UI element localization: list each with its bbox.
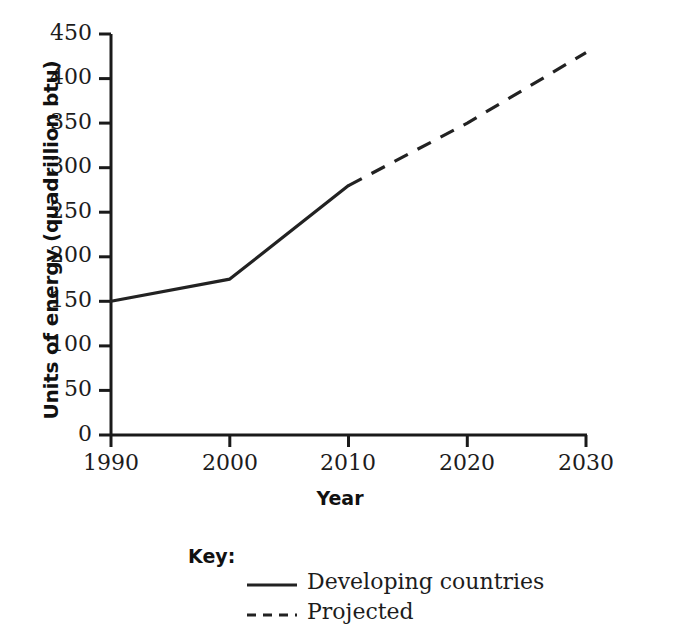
x-axis-title: Year bbox=[240, 487, 440, 509]
plot-area bbox=[0, 0, 681, 637]
legend-solid-line-icon bbox=[246, 576, 298, 588]
legend-item-projected: Projected bbox=[246, 601, 414, 623]
line-chart-figure: 450 400 350 300 250 200 150 100 50 0 199… bbox=[0, 0, 681, 637]
ytick-label-450: 450 bbox=[22, 22, 92, 44]
legend-label-projected: Projected bbox=[307, 601, 414, 623]
y-axis-title: Units of energy (quadrillion btu) bbox=[39, 45, 63, 435]
x-axis-ticks bbox=[111, 435, 586, 447]
xtick-label-2000: 2000 bbox=[180, 452, 280, 474]
y-axis-ticks bbox=[99, 34, 111, 435]
legend-dashed-line-icon bbox=[246, 606, 298, 618]
xtick-label-2030: 2030 bbox=[536, 452, 636, 474]
legend-item-developing-countries: Developing countries bbox=[246, 571, 544, 593]
legend-label-developing-countries: Developing countries bbox=[307, 571, 544, 593]
xtick-label-2010: 2010 bbox=[298, 452, 398, 474]
legend-heading: Key: bbox=[188, 545, 235, 567]
series-line-projected bbox=[349, 53, 587, 186]
series-line-developing-countries bbox=[111, 186, 349, 302]
xtick-label-1990: 1990 bbox=[61, 452, 161, 474]
xtick-label-2020: 2020 bbox=[417, 452, 517, 474]
